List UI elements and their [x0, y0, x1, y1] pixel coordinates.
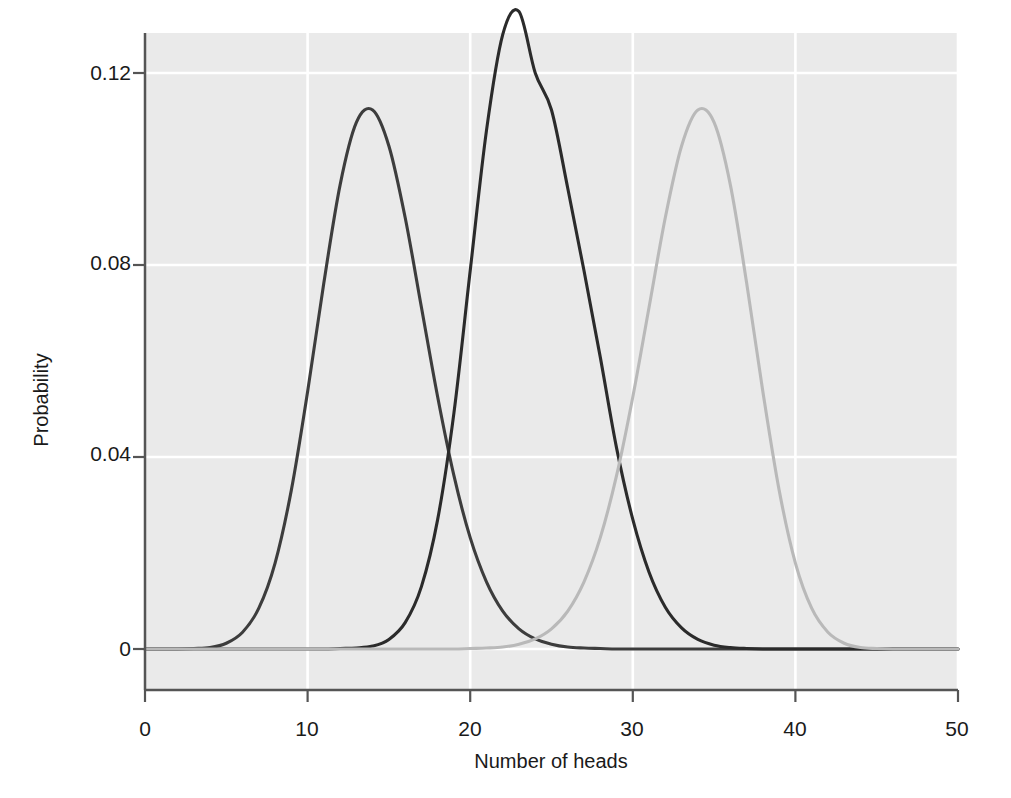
chart-canvas: 0 0.04 0.08 0.12 0 10 20 30 40 50 Number…	[0, 0, 1011, 798]
y-tick-label-004: 0.04	[90, 442, 131, 465]
probability-chart-figure: 0 0.04 0.08 0.12 0 10 20 30 40 50 Number…	[0, 0, 1011, 798]
y-axis-title: Probability	[30, 353, 52, 446]
y-tick-label-008: 0.08	[90, 251, 131, 274]
x-tick-label-0: 0	[139, 717, 151, 740]
y-tick-label-012: 0.12	[90, 61, 131, 84]
x-tick-label-30: 30	[620, 717, 643, 740]
x-tick-label-20: 20	[458, 717, 481, 740]
x-tick-label-40: 40	[783, 717, 806, 740]
y-tick-label-0: 0	[119, 637, 131, 660]
x-tick-label-10: 10	[295, 717, 318, 740]
x-axis-title: Number of heads	[474, 750, 627, 772]
x-tick-label-50: 50	[945, 717, 968, 740]
